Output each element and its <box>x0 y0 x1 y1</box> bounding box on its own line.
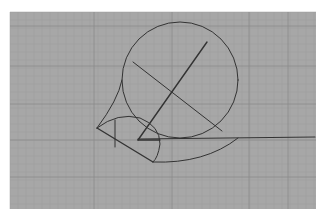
grid-background <box>10 12 316 209</box>
diagram-svg <box>0 0 327 221</box>
geometry-diagram <box>0 0 327 221</box>
